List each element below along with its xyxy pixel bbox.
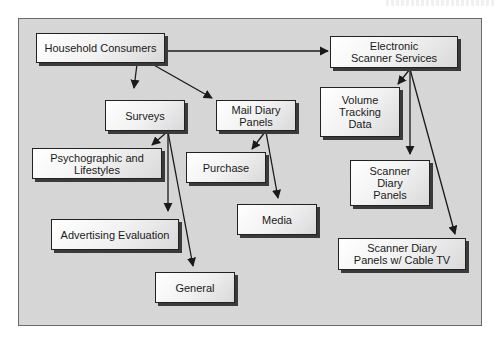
node-advertising-evaluation[interactable]: Advertising Evaluation [51, 219, 179, 250]
node-purchase[interactable]: Purchase [186, 152, 266, 183]
node-surveys[interactable]: Surveys [105, 100, 185, 131]
node-mail-diary-panels[interactable]: Mail Diary Panels [216, 100, 296, 131]
node-volume-tracking-data[interactable]: Volume Tracking Data [320, 87, 400, 137]
node-media[interactable]: Media [237, 204, 317, 235]
node-scanner-diary-panels[interactable]: Scanner Diary Panels [350, 160, 430, 206]
node-household-consumers[interactable]: Household Consumers [36, 33, 165, 63]
node-scanner-diary-cable-tv[interactable]: Scanner Diary Panels w/ Cable TV [338, 238, 466, 270]
node-general[interactable]: General [155, 272, 235, 303]
node-electronic-scanner-services[interactable]: Electronic Scanner Services [330, 36, 458, 68]
node-psychographic-lifestyles[interactable]: Psychographic and Lifestyles [32, 148, 162, 179]
cropped-header-text [386, 0, 496, 6]
